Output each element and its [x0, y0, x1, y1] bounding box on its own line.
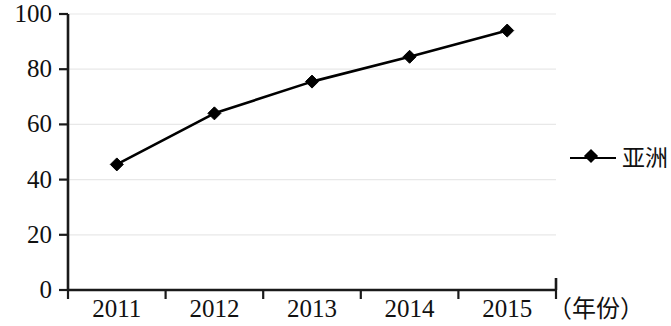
- y-tick-marks-group: [59, 14, 68, 290]
- x-axis-tick-label: 2011: [67, 294, 167, 324]
- data-point-marker: [403, 50, 416, 63]
- x-axis-tick-label: 2012: [164, 294, 264, 324]
- data-point-marker: [110, 158, 123, 171]
- y-axis-tick-labels: 020406080100: [0, 0, 52, 326]
- x-axis-tick-label: 2013: [262, 294, 362, 324]
- x-axis-tick-label: 2015: [457, 294, 557, 324]
- y-axis-tick-label: 60: [4, 111, 52, 136]
- chart-legend: 亚洲: [570, 146, 668, 170]
- legend-marker-diamond-icon: [570, 151, 616, 165]
- y-axis-tick-label: 100: [4, 1, 52, 26]
- data-point-marker: [501, 24, 514, 37]
- x-axis-title: （年份）: [548, 294, 644, 324]
- series-line-0: [117, 31, 507, 165]
- y-axis-tick-label: 40: [4, 167, 52, 192]
- data-point-marker: [208, 107, 221, 120]
- data-series-group: [117, 31, 507, 165]
- legend-label: 亚洲: [622, 146, 668, 170]
- line-chart-figure: 020406080100 20112012201320142015 （年份） 亚…: [0, 0, 671, 326]
- gridlines-group: [68, 14, 556, 235]
- data-point-marker: [306, 75, 319, 88]
- y-axis-tick-label: 80: [4, 56, 52, 81]
- y-axis-tick-label: 20: [4, 222, 52, 247]
- x-axis-tick-label: 2014: [360, 294, 460, 324]
